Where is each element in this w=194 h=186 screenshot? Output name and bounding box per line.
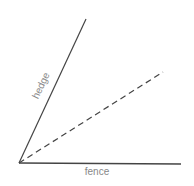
hedge-line [19,19,86,163]
hedge-label: hedge [30,70,52,100]
angle-diagram: hedge fence [0,0,194,186]
fence-line [19,163,181,164]
fence-label: fence [85,166,110,177]
